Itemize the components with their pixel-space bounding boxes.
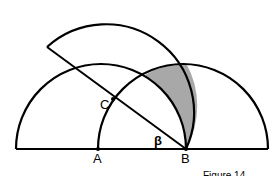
geometry-figure — [0, 0, 279, 176]
point-c-dot — [111, 97, 115, 101]
label-c: C — [100, 98, 109, 111]
angle-beta-label: β — [154, 134, 162, 147]
figure-caption: Figure 14 — [203, 170, 245, 176]
label-a: A — [93, 152, 102, 165]
label-b: B — [181, 152, 190, 165]
diameter-line — [47, 47, 186, 149]
shaded-region — [145, 63, 197, 149]
diagram-canvas: A B C β Figure 14 — [0, 0, 279, 176]
